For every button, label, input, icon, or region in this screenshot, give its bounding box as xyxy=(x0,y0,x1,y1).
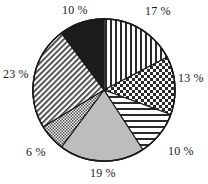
pie-chart-figure: 17 %13 %10 %19 %6 %23 %10 % xyxy=(0,0,208,184)
pie-slice-label: 6 % xyxy=(26,146,46,158)
pie-slices-group xyxy=(33,19,175,161)
pie-slice-label: 10 % xyxy=(168,145,194,157)
pie-slice-label: 10 % xyxy=(62,4,88,16)
pie-slice-label: 17 % xyxy=(145,5,171,17)
pie-slice-label: 13 % xyxy=(178,72,204,84)
pie-slice-label: 19 % xyxy=(90,167,116,179)
pie-slice-label: 23 % xyxy=(3,68,29,80)
